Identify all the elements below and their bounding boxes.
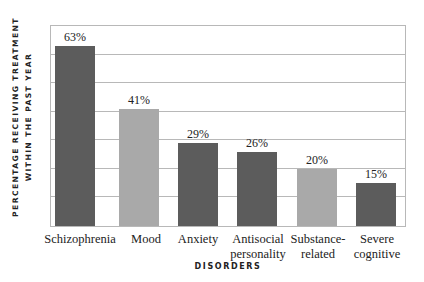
y-axis-label: PERCENTAGE RECEIVING TREATMENT WITHIN TH… [2,12,42,222]
x-axis-label: DISORDERS [50,262,406,271]
value-label: 26% [237,136,277,151]
gridline [51,168,405,169]
plot-area [50,25,406,227]
gridline [51,82,405,83]
y-axis-label-line1: PERCENTAGE RECEIVING TREATMENT [9,17,22,217]
value-label: 63% [55,30,95,45]
bar [237,152,277,226]
gridline [51,196,405,197]
bar [55,46,95,226]
value-label: 15% [356,167,396,182]
category-label-line: cognitive [337,247,417,262]
category-label-line: Severe [337,232,417,247]
bar [356,183,396,226]
value-label: 29% [178,127,218,142]
category-label: Severecognitive [337,232,417,262]
gridline [51,139,405,140]
bar [297,169,337,226]
bar [119,109,159,226]
gridline [51,54,405,55]
y-axis-label-line2: WITHIN THE PAST YEAR [22,17,35,217]
value-label: 41% [119,93,159,108]
bar [178,143,218,226]
value-label: 20% [297,153,337,168]
gridline [51,111,405,112]
